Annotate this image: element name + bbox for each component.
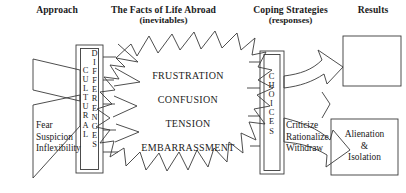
- coping-line-1: Criticize: [286, 120, 329, 132]
- choices-label: CHOICES: [267, 72, 276, 136]
- vertical-letter: U: [81, 102, 90, 111]
- vertical-letter: S: [267, 127, 276, 136]
- result-line-1: Alienation: [331, 129, 398, 141]
- approach-lower-wedge-text: Fear Suspicion Inflexibility: [36, 120, 81, 155]
- coping-line-2: Rationalize: [286, 132, 329, 144]
- header-coping: Coping Strategies: [237, 4, 344, 15]
- burst-word-confusion: CONFUSION: [126, 94, 250, 105]
- differences-label: DIFFERENCES: [90, 49, 99, 149]
- vertical-letter: U: [81, 75, 90, 84]
- cultural-label: CULTURAL: [81, 66, 90, 139]
- result-bottom-text: Alienation & Isolation: [331, 129, 398, 164]
- vertical-letter: F: [90, 76, 99, 85]
- vertical-letter: A: [81, 121, 90, 130]
- header-approach: Approach: [14, 4, 100, 15]
- approach-line-1: Fear: [36, 120, 81, 132]
- vertical-letter: I: [267, 99, 276, 108]
- vertical-letter: T: [81, 93, 90, 102]
- approach-upper-wedge: [33, 59, 80, 101]
- vertical-letter: E: [90, 85, 99, 94]
- arrow-to-top-result: [284, 50, 343, 88]
- burst-word-frustration: FRUSTRATION: [126, 70, 250, 81]
- header-results: Results: [344, 4, 402, 15]
- burst-inflow-arrow-1: [116, 44, 138, 62]
- diagram-canvas: Approach The Facts of Life Abroad (inevi…: [0, 0, 406, 193]
- vertical-letter: H: [267, 81, 276, 90]
- vertical-letter: E: [267, 117, 276, 126]
- coping-text: Criticize Rationalize Withdraw: [286, 120, 329, 155]
- coping-line-3: Withdraw: [286, 143, 329, 155]
- vertical-letter: F: [90, 67, 99, 76]
- vertical-letter: C: [81, 66, 90, 75]
- vertical-letter: S: [90, 140, 99, 149]
- header-facts: The Facts of Life Abroad: [97, 4, 230, 15]
- vertical-letter: I: [90, 58, 99, 67]
- approach-line-2: Suspicion: [36, 132, 81, 144]
- vertical-letter: C: [267, 108, 276, 117]
- vertical-letter: N: [90, 113, 99, 122]
- arrow-split-chevron: [322, 92, 330, 118]
- vertical-letter: D: [90, 49, 99, 58]
- vertical-letter: L: [81, 84, 90, 93]
- vertical-letter: O: [267, 90, 276, 99]
- vertical-letter: R: [81, 111, 90, 120]
- burst-word-embarrassment: EMBARRASSMENT: [120, 142, 256, 153]
- vertical-letter: E: [90, 131, 99, 140]
- burst-word-tension: TENSION: [126, 118, 250, 129]
- vertical-letter: C: [267, 72, 276, 81]
- vertical-letter: E: [90, 104, 99, 113]
- result-line-2: &: [331, 141, 398, 153]
- approach-line-3: Inflexibility: [36, 143, 81, 155]
- header-coping-subtitle: (responses): [237, 15, 344, 26]
- result-top-box: [343, 36, 401, 86]
- vertical-letter: L: [81, 130, 90, 139]
- header-facts-subtitle: (inevitables): [97, 15, 230, 26]
- vertical-letter: R: [90, 94, 99, 103]
- vertical-letter: C: [90, 122, 99, 131]
- result-line-3: Isolation: [331, 152, 398, 164]
